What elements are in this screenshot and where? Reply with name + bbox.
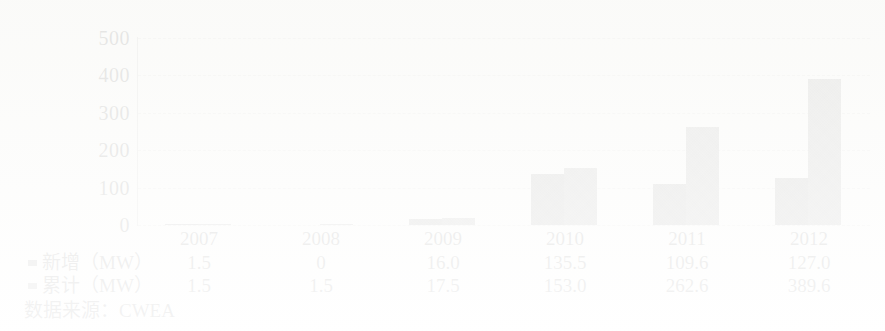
value-new-2008: 0 bbox=[260, 251, 382, 274]
bar-cum-2008[interactable] bbox=[320, 224, 353, 225]
chart-figure: 500 400 300 200 100 0 bbox=[0, 0, 885, 331]
gridline-400 bbox=[138, 75, 870, 76]
table-row-new-capacity: 新增（MW） 1.5 0 16.0 135.5 109.6 127.0 bbox=[24, 251, 874, 274]
bar-new-2012[interactable] bbox=[775, 178, 808, 225]
bar-new-2009[interactable] bbox=[409, 219, 442, 225]
value-cum-2012: 389.6 bbox=[748, 274, 870, 297]
value-new-2007: 1.5 bbox=[138, 251, 260, 274]
x-tick-label-2007: 2007 bbox=[138, 228, 260, 250]
y-tick-label-100: 100 bbox=[70, 178, 130, 198]
value-cum-2010: 153.0 bbox=[504, 274, 626, 297]
value-new-2010: 135.5 bbox=[504, 251, 626, 274]
x-tick-label-2010: 2010 bbox=[504, 228, 626, 250]
bar-cum-2010[interactable] bbox=[564, 168, 597, 225]
gridline-200 bbox=[138, 150, 870, 151]
bar-new-2011[interactable] bbox=[653, 184, 686, 225]
x-axis-labels: 2007 2008 2009 2010 2011 2012 bbox=[138, 228, 870, 252]
plot-area bbox=[138, 38, 870, 225]
value-cum-2011: 262.6 bbox=[626, 274, 748, 297]
bar-cum-2009[interactable] bbox=[442, 218, 475, 225]
legend-square-icon-new bbox=[28, 260, 37, 266]
gridline-0 bbox=[138, 225, 870, 226]
bar-new-2007[interactable] bbox=[165, 224, 198, 225]
value-cum-2009: 17.5 bbox=[382, 274, 504, 297]
y-tick-label-300: 300 bbox=[70, 103, 130, 123]
value-cum-2007: 1.5 bbox=[138, 274, 260, 297]
source-note: 数据来源：CWEA bbox=[24, 299, 175, 323]
x-tick-label-2009: 2009 bbox=[382, 228, 504, 250]
gridline-300 bbox=[138, 113, 870, 114]
value-cum-2008: 1.5 bbox=[260, 274, 382, 297]
bar-new-2010[interactable] bbox=[531, 174, 564, 225]
bar-cum-2012[interactable] bbox=[808, 79, 841, 225]
bar-cum-2011[interactable] bbox=[686, 127, 719, 225]
chart-data-table: 新增（MW） 1.5 0 16.0 135.5 109.6 127.0 累计（M… bbox=[24, 251, 874, 299]
gridline-500 bbox=[138, 38, 870, 39]
x-tick-label-2011: 2011 bbox=[626, 228, 748, 250]
x-tick-label-2008: 2008 bbox=[260, 228, 382, 250]
value-new-2011: 109.6 bbox=[626, 251, 748, 274]
legend-square-icon-cumulative bbox=[28, 283, 37, 289]
y-tick-label-200: 200 bbox=[70, 140, 130, 160]
value-new-2012: 127.0 bbox=[748, 251, 870, 274]
y-tick-label-400: 400 bbox=[70, 65, 130, 85]
y-tick-label-0: 0 bbox=[70, 215, 130, 235]
gridline-100 bbox=[138, 188, 870, 189]
x-tick-label-2012: 2012 bbox=[748, 228, 870, 250]
value-new-2009: 16.0 bbox=[382, 251, 504, 274]
y-tick-label-500: 500 bbox=[70, 28, 130, 48]
table-row-cumulative-capacity: 累计（MW） 1.5 1.5 17.5 153.0 262.6 389.6 bbox=[24, 274, 874, 297]
bar-cum-2007[interactable] bbox=[198, 224, 231, 225]
